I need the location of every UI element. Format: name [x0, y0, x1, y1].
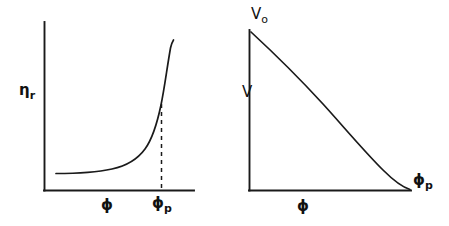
chart-panel-relative-viscosity: ηr ϕ ϕp: [0, 0, 225, 226]
eta-glyph: η: [19, 81, 30, 99]
figure-root: ηr ϕ ϕp V Vo ϕ ϕp: [0, 0, 449, 226]
chart-panel-velocity: V Vo ϕ ϕp: [225, 0, 449, 226]
velocity-plot: [225, 0, 449, 226]
x-axis-endpoint-label-phi-p: ϕp: [413, 172, 433, 188]
y-axis-label-eta-r: ηr: [19, 82, 35, 98]
v-subscript-o: o: [261, 13, 268, 26]
x-axis-marker-label-phi-p: ϕp: [152, 195, 172, 211]
phi-glyph: ϕ: [413, 171, 425, 189]
velocity-curve: [251, 32, 410, 190]
phi-subscript-p: p: [164, 202, 172, 215]
relative-viscosity-plot: [0, 0, 225, 226]
phi-glyph: ϕ: [152, 194, 164, 212]
v-glyph: V: [251, 5, 261, 23]
y-intercept-label-v-zero: Vo: [251, 6, 268, 22]
x-axis-label-phi: ϕ: [101, 197, 113, 213]
eta-subscript-r: r: [30, 89, 35, 102]
viscosity-curve: [56, 40, 174, 174]
phi-glyph: ϕ: [297, 197, 309, 215]
x-axis-label-phi: ϕ: [297, 198, 309, 214]
phi-glyph: ϕ: [101, 196, 113, 214]
y-axis-label-v: V: [242, 84, 252, 100]
phi-subscript-p: p: [425, 179, 433, 192]
v-glyph: V: [242, 83, 252, 101]
